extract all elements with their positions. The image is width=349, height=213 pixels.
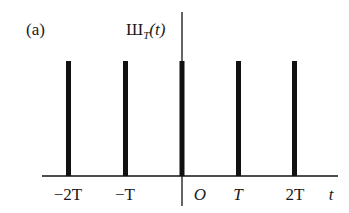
x-axis-label: t (329, 185, 335, 204)
dirac-comb-diagram: (a) ШT(t) −2T −T O T 2T t (0, 0, 349, 213)
function-symbol: Ш (126, 20, 143, 39)
panel-label: (a) (26, 20, 45, 39)
spike-minus-2T (66, 61, 71, 176)
spike-minus-T (123, 61, 128, 176)
tick-label-minus-2T: −2T (54, 185, 83, 204)
impulse-spikes (66, 61, 297, 176)
spike-zero (180, 61, 185, 176)
function-label: ШT(t) (126, 20, 166, 41)
tick-label-2T: 2T (286, 185, 306, 204)
tick-label-T: T (233, 185, 244, 204)
origin-label: O (194, 185, 206, 204)
spike-2T (292, 61, 297, 176)
spike-T (236, 61, 241, 176)
tick-label-minus-T: −T (115, 185, 136, 204)
function-argument: (t) (149, 20, 165, 39)
